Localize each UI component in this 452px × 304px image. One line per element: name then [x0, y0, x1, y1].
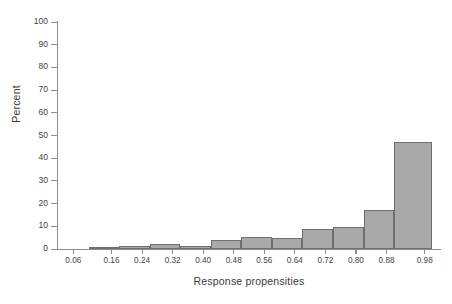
x-axis-title: Response propensities: [58, 275, 440, 287]
histogram-figure: 0102030405060708090100 0.060.160.240.320…: [0, 0, 452, 304]
histogram-bar: [180, 246, 211, 249]
x-axis-tick: [142, 249, 143, 254]
y-axis-tick: [51, 44, 57, 45]
x-axis-tick: [355, 249, 356, 254]
x-axis-tick-label: 0.88: [367, 256, 407, 265]
y-axis-tick: [51, 226, 57, 227]
histogram-bar: [272, 238, 303, 249]
histogram-bar: [364, 210, 395, 249]
histogram-bar: [394, 142, 432, 249]
y-axis-tick: [51, 90, 57, 91]
x-axis-tick: [73, 249, 74, 254]
y-axis-tick: [51, 203, 57, 204]
x-axis-tick-label: 0.98: [405, 256, 445, 265]
x-axis-tick: [294, 249, 295, 254]
y-axis-tick-label: 30: [14, 175, 48, 185]
histogram-bar: [302, 229, 333, 249]
y-axis-tick-label: 10: [14, 220, 48, 230]
histogram-bar: [333, 227, 364, 249]
x-axis-tick: [386, 249, 387, 254]
plot-area: [58, 22, 440, 249]
x-axis-tick: [111, 249, 112, 254]
y-axis-tick-label: 0: [14, 243, 48, 253]
x-axis-tick: [203, 249, 204, 254]
x-axis-tick-label: 0.06: [53, 256, 93, 265]
histogram-bar: [211, 240, 242, 249]
y-axis-tick: [51, 135, 57, 136]
y-axis-tick: [51, 67, 57, 68]
y-axis-tick: [51, 158, 57, 159]
y-axis-tick: [51, 249, 57, 250]
y-axis-tick: [51, 112, 57, 113]
histogram-bar: [241, 237, 272, 249]
histogram-bar: [150, 244, 181, 249]
y-axis-tick: [51, 22, 57, 23]
x-axis-tick: [264, 249, 265, 254]
histogram-bar: [119, 246, 150, 249]
y-axis-tick-label: 100: [14, 16, 48, 26]
y-axis-tick: [51, 180, 57, 181]
x-axis-tick: [325, 249, 326, 254]
y-axis-tick-label: 20: [14, 198, 48, 208]
x-axis-tick: [233, 249, 234, 254]
histogram-bar: [89, 247, 120, 249]
x-axis-tick: [424, 249, 425, 254]
y-axis-title: Percent: [10, 44, 22, 164]
x-axis-tick: [172, 249, 173, 254]
